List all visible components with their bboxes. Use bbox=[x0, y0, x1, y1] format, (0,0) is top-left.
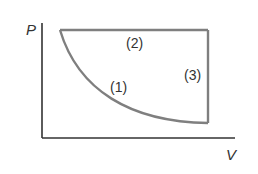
x-axis-label: V bbox=[226, 146, 238, 163]
pv-diagram: P V (2) (1) (3) bbox=[0, 0, 258, 174]
y-axis-label: P bbox=[26, 21, 36, 38]
process-3-label: (3) bbox=[184, 67, 201, 83]
process-2-label: (2) bbox=[126, 35, 143, 51]
process-1-label: (1) bbox=[110, 79, 127, 95]
